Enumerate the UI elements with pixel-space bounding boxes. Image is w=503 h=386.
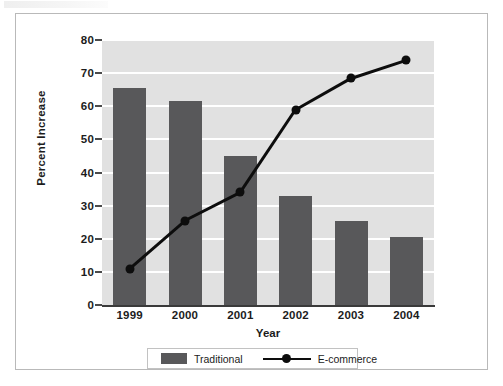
gridline <box>102 205 434 207</box>
gridline <box>102 172 434 174</box>
gridline <box>102 271 434 273</box>
y-tick-label: 30 <box>34 200 94 212</box>
bar-2003 <box>335 221 368 305</box>
y-tick-label: 70 <box>34 67 94 79</box>
chart-figure-frame: Percent Increase 01020304050607080 19992… <box>15 13 488 370</box>
legend-label-traditional: Traditional <box>194 353 243 365</box>
y-tick-label: 50 <box>34 133 94 145</box>
y-tick-mark <box>95 72 102 74</box>
y-tick-label: 0 <box>34 299 94 311</box>
y-tick-mark <box>95 271 102 273</box>
x-axis-title: Year <box>102 327 434 339</box>
data-point-2002 <box>291 105 300 114</box>
chart-plot-wrapper: Percent Increase 01020304050607080 19992… <box>16 14 489 371</box>
y-tick-mark <box>95 238 102 240</box>
plot-area <box>102 40 434 305</box>
legend-item-ecommerce[interactable]: E-commerce <box>263 353 378 365</box>
gridline <box>102 238 434 240</box>
gridline <box>102 105 434 107</box>
y-tick-mark <box>95 205 102 207</box>
y-tick-label: 40 <box>34 167 94 179</box>
gridline <box>102 138 434 140</box>
x-tick-label-2004: 2004 <box>371 309 441 321</box>
y-axis-tick-labels: 01020304050607080 <box>24 14 94 371</box>
scan-artifact <box>4 1 108 8</box>
y-tick-mark <box>95 304 102 306</box>
x-axis-line <box>102 305 435 307</box>
data-point-2000 <box>181 216 190 225</box>
bar-2002 <box>279 196 312 305</box>
y-tick-label: 60 <box>34 100 94 112</box>
data-point-2001 <box>236 188 245 197</box>
legend-swatch-icon <box>161 353 187 364</box>
y-tick-label: 20 <box>34 233 94 245</box>
gridline <box>102 39 434 41</box>
line-segment <box>239 109 296 193</box>
data-point-2003 <box>347 74 356 83</box>
y-tick-mark <box>95 105 102 107</box>
y-tick-label: 10 <box>34 266 94 278</box>
bar-2000 <box>169 101 202 305</box>
y-tick-mark <box>95 138 102 140</box>
chart-legend: Traditional E-commerce <box>147 348 358 369</box>
bar-2004 <box>390 237 423 305</box>
data-point-1999 <box>125 264 134 273</box>
line-segment <box>351 59 407 80</box>
data-point-2004 <box>402 55 411 64</box>
legend-item-traditional[interactable]: Traditional <box>161 353 243 365</box>
legend-line-marker-icon <box>263 353 311 364</box>
y-tick-label: 80 <box>34 34 94 46</box>
y-tick-mark <box>95 172 102 174</box>
legend-label-ecommerce: E-commerce <box>318 353 378 365</box>
gridline <box>102 72 434 74</box>
y-tick-mark <box>95 39 102 41</box>
bar-2001 <box>224 156 257 305</box>
